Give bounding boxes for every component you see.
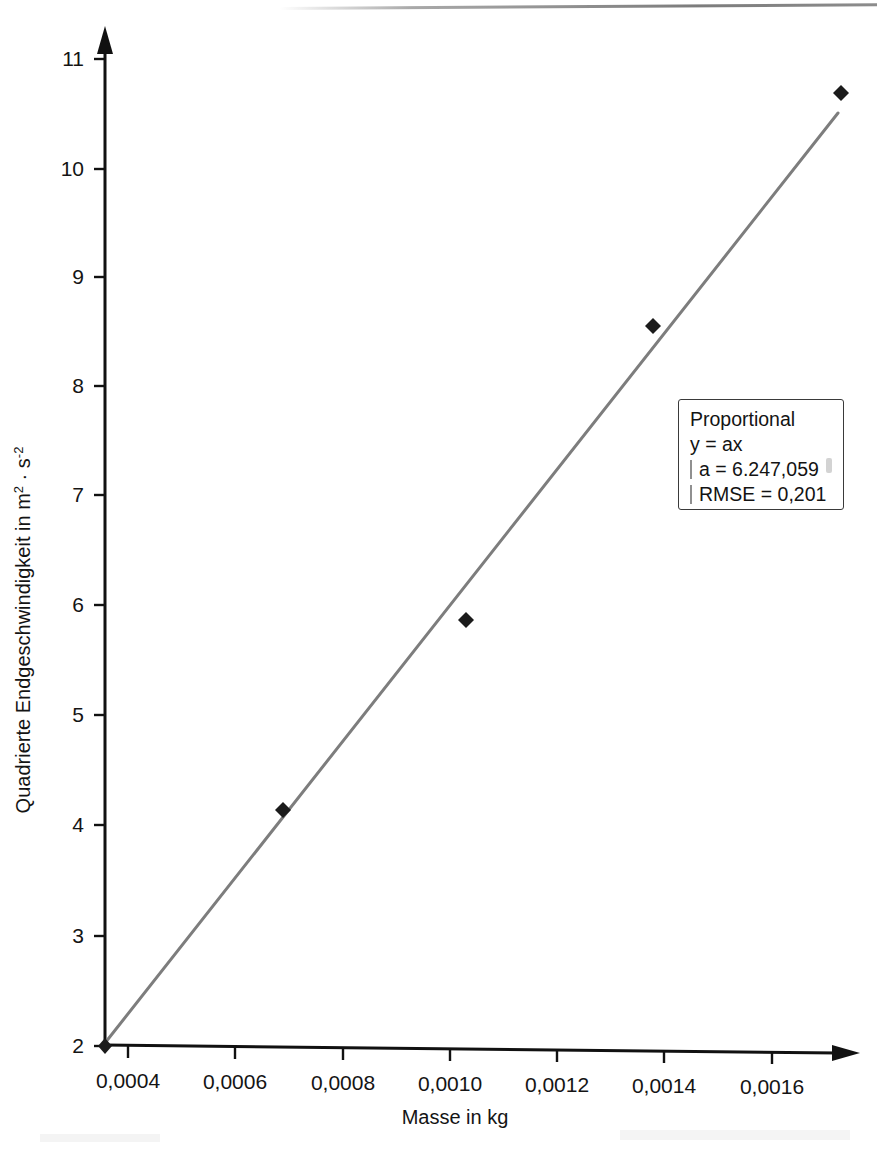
data-point-marker (645, 318, 661, 334)
x-axis-tick-labels: 0,0004 0,0006 0,0008 0,0010 0,0012 0,001… (96, 1069, 804, 1098)
y-tick-label: 11 (62, 47, 84, 70)
x-tick-label: 0,0008 (311, 1071, 375, 1094)
y-tick-label: 6 (72, 593, 84, 616)
fit-equation: y = ax (690, 432, 843, 457)
data-point-marker (833, 85, 849, 101)
y-axis-title: Quadrierte Endgeschwindigkeit in m2 · s-… (11, 447, 35, 814)
scan-artifact-speck (826, 458, 832, 473)
x-tick-label: 0,0010 (418, 1072, 482, 1095)
data-point-marker (458, 612, 474, 628)
proportional-fit-line (105, 113, 838, 1043)
fit-rmse-value: RMSE = 0,201 (690, 482, 843, 507)
x-tick-label: 0,0006 (203, 1070, 267, 1093)
y-tick-label: 2 (72, 1034, 84, 1057)
y-tick-label: 9 (72, 265, 84, 288)
data-point-marker (98, 1038, 112, 1054)
x-tick-label: 0,0012 (525, 1073, 589, 1096)
y-axis-arrowhead (97, 26, 113, 54)
data-point-marker (275, 802, 291, 818)
y-tick-label: 5 (72, 703, 84, 726)
y-tick-label: 7 (72, 483, 84, 506)
x-axis-arrowhead (832, 1045, 860, 1061)
y-tick-label: 4 (72, 813, 84, 836)
fit-slope-value: a = 6.247,059 (690, 457, 843, 482)
x-tick-label: 0,0014 (632, 1074, 697, 1097)
y-axis-ticks (94, 59, 105, 1046)
fit-model-label: Proportional (690, 407, 843, 432)
plot-canvas: 11 10 9 8 7 6 5 4 3 2 0,0004 0,0006 0,00… (0, 0, 877, 1152)
y-tick-label: 10 (61, 157, 84, 180)
y-axis-tick-labels: 11 10 9 8 7 6 5 4 3 2 (61, 47, 85, 1057)
x-axis (105, 1045, 860, 1061)
y-tick-label: 8 (72, 374, 84, 397)
y-tick-label: 3 (72, 924, 84, 947)
x-axis-title: Masse in kg (402, 1106, 509, 1128)
x-tick-label: 0,0004 (96, 1069, 161, 1092)
x-tick-label: 0,0016 (740, 1075, 804, 1098)
fit-annotation-box: Proportional y = ax a = 6.247,059 RMSE =… (678, 399, 844, 510)
chart-figure: 11 10 9 8 7 6 5 4 3 2 0,0004 0,0006 0,00… (0, 0, 877, 1152)
y-axis (97, 26, 113, 1047)
